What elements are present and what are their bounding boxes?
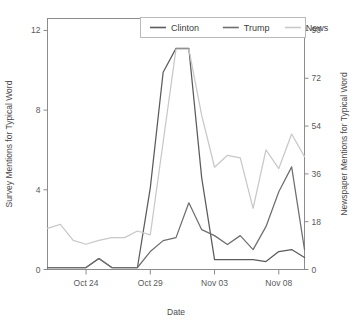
- left-tick-label: 0: [36, 265, 41, 275]
- series-line-trump: [48, 167, 305, 268]
- bottom-tick-label: Oct 29: [138, 278, 163, 288]
- right-tick-label: 0: [312, 265, 317, 275]
- bottom-tick-label: Oct 24: [74, 278, 99, 288]
- line-chart: 04812 01836547290 Oct 24Oct 29Nov 03Nov …: [0, 0, 356, 322]
- bottom-tick-label: Nov 08: [265, 278, 292, 288]
- left-tick-label: 12: [31, 25, 41, 35]
- right-tick-label: 72: [312, 73, 322, 83]
- right-tick-label: 54: [312, 121, 322, 131]
- right-axis-ticks: 01836547290: [305, 25, 322, 274]
- left-axis-ticks: 04812: [31, 25, 47, 274]
- right-tick-label: 36: [312, 169, 322, 179]
- series-lines: [48, 48, 305, 267]
- bottom-axis-title: Date: [167, 307, 185, 317]
- legend-label-trump[interactable]: Trump: [244, 23, 270, 33]
- left-axis-title: Survey Mentions for Typical Word: [4, 80, 14, 207]
- right-axis-title: Newspaper Mentions for Typical Word: [339, 72, 349, 216]
- right-tick-label: 18: [312, 217, 322, 227]
- series-line-clinton: [48, 48, 305, 267]
- chart-legend[interactable]: ClintonTrumpNews: [141, 18, 329, 38]
- bottom-tick-label: Nov 03: [201, 278, 228, 288]
- series-line-news: [48, 49, 305, 244]
- chart-figure: 04812 01836547290 Oct 24Oct 29Nov 03Nov …: [0, 0, 356, 322]
- plot-frame: [48, 19, 305, 270]
- left-tick-label: 8: [36, 105, 41, 115]
- left-tick-label: 4: [36, 185, 41, 195]
- legend-label-clinton[interactable]: Clinton: [171, 23, 199, 33]
- legend-label-news[interactable]: News: [306, 23, 329, 33]
- bottom-axis-ticks: Oct 24Oct 29Nov 03Nov 08: [74, 270, 293, 288]
